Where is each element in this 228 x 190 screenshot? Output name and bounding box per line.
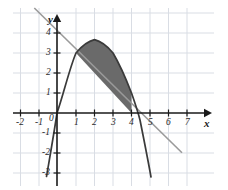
x-tick-label--2: -2 bbox=[16, 118, 24, 128]
x-tick-label-1: 1 bbox=[74, 118, 79, 128]
y-tick-label-1: 1 bbox=[46, 88, 51, 98]
y-tick-label-3: 3 bbox=[46, 48, 51, 58]
y-tick-label--3: -3 bbox=[42, 168, 50, 178]
x-tick-label-7: 7 bbox=[185, 118, 190, 128]
x-axis-label: x bbox=[204, 118, 210, 129]
x-tick-label-4: 4 bbox=[129, 118, 134, 128]
x-tick-label-0: 0 bbox=[49, 114, 54, 124]
y-axis-label: y bbox=[48, 14, 53, 25]
y-tick-label-4: 4 bbox=[46, 28, 51, 38]
x-tick-label-6: 6 bbox=[166, 118, 171, 128]
y-tick-label--2: -2 bbox=[42, 148, 50, 158]
grid-lines bbox=[13, 8, 214, 186]
y-tick-label--1: -1 bbox=[42, 128, 50, 138]
x-tick-label-5: 5 bbox=[148, 118, 153, 128]
y-tick-label-2: 2 bbox=[46, 68, 51, 78]
y-axis bbox=[53, 14, 61, 186]
coordinate-plot bbox=[0, 0, 228, 190]
x-axis bbox=[13, 109, 212, 117]
x-tick-label-2: 2 bbox=[92, 118, 97, 128]
graph-figure: -2 -1 0 1 2 3 4 5 6 7 4 3 2 1 -1 -2 -3 x… bbox=[0, 0, 228, 190]
x-tick-label-3: 3 bbox=[111, 118, 116, 128]
